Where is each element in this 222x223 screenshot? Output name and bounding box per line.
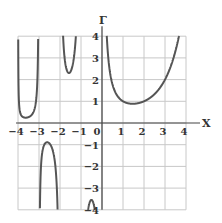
x-tick-labels: −4−3−2−101234	[8, 126, 187, 137]
y-axis-label: Γ	[99, 14, 107, 27]
x-tick-label: 4	[181, 126, 188, 137]
y-tick-label: −2	[84, 161, 99, 172]
x-tick-label: −4	[8, 126, 23, 137]
y-tick-label: −3	[84, 183, 99, 194]
gamma-curve-branch-1	[18, 39, 38, 118]
y-tick-label: −4	[84, 205, 99, 216]
y-tick-label: −1	[84, 140, 99, 151]
x-tick-label: 3	[160, 126, 167, 137]
x-axis-label: X	[202, 117, 211, 130]
x-tick-label: 1	[118, 126, 125, 137]
y-tick-label: 2	[92, 75, 99, 86]
y-tick-label: 4	[92, 31, 99, 42]
gamma-curve-branch-2	[40, 142, 58, 209]
x-tick-label: 2	[139, 126, 146, 137]
y-tick-label: 3	[92, 53, 99, 64]
x-tick-label: −2	[50, 126, 65, 137]
gamma-curve-branch-5	[107, 36, 179, 104]
gamma-curve-branch-3	[63, 36, 76, 73]
y-tick-label: 1	[92, 96, 99, 107]
gamma-function-chart: −4−3−2−101234 4321−1−2−3−4 X Γ	[0, 0, 222, 223]
x-tick-label: 0	[94, 126, 101, 137]
x-tick-label: −3	[29, 126, 44, 137]
x-tick-label: −1	[71, 126, 86, 137]
